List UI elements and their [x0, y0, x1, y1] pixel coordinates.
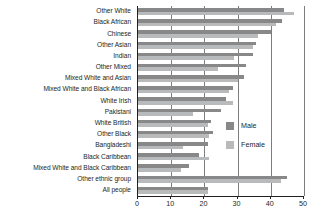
bar-row — [138, 28, 304, 39]
bar-female — [138, 79, 238, 83]
bar-female — [138, 112, 193, 116]
bar-row — [138, 73, 304, 84]
category-label: White British — [0, 118, 134, 129]
bar-female — [138, 101, 233, 105]
bar-female — [138, 168, 181, 172]
bar-female — [138, 179, 281, 183]
x-tick-label: 10 — [166, 200, 174, 207]
bar-female — [138, 123, 208, 127]
category-label: Other Black — [0, 129, 134, 140]
category-label: All people — [0, 185, 134, 196]
category-label: Pakistani — [0, 107, 134, 118]
bar-row — [138, 95, 304, 106]
gridline — [304, 6, 305, 196]
bar-female — [138, 34, 258, 38]
bar-female — [138, 45, 253, 49]
bar-female — [138, 157, 209, 161]
x-tick-label: 50 — [299, 200, 307, 207]
category-label: Mixed White and Black African — [0, 84, 134, 95]
x-tick-label: 40 — [266, 200, 274, 207]
x-tick-label: 0 — [135, 200, 139, 207]
x-tick-label: 30 — [233, 200, 241, 207]
x-tick-label: 20 — [199, 200, 207, 207]
category-label: White Irish — [0, 95, 134, 106]
bar-row — [138, 84, 304, 95]
category-label: Black Caribbean — [0, 151, 134, 162]
bar-female — [138, 67, 218, 71]
category-label: Mixed White and Black Caribbean — [0, 162, 134, 173]
legend-label: Female — [241, 141, 265, 148]
x-axis-line — [137, 196, 303, 197]
category-label: Other Asian — [0, 40, 134, 51]
category-label: Other ethnic group — [0, 174, 134, 185]
legend-swatch-icon — [226, 141, 234, 149]
bar-rows — [138, 6, 304, 196]
category-label: Bangladeshi — [0, 140, 134, 151]
bar-female — [138, 190, 208, 194]
legend-label: Male — [241, 122, 257, 129]
category-label: Other White — [0, 6, 134, 17]
legend-item-female: Female — [226, 141, 296, 149]
plot-area — [137, 6, 304, 196]
bar-row — [138, 17, 304, 28]
horizontal-bar-chart: Other WhiteBlack AfricanChineseOther Asi… — [0, 0, 312, 223]
bar-female — [138, 90, 229, 94]
category-label: Chinese — [0, 28, 134, 39]
bar-female — [138, 23, 276, 27]
bar-female — [138, 146, 183, 150]
bar-row — [138, 6, 304, 17]
bar-row — [138, 40, 304, 51]
legend-item-male: Male — [226, 122, 296, 130]
bar-female — [138, 12, 294, 16]
category-label: Black African — [0, 17, 134, 28]
category-label: Other Mixed — [0, 62, 134, 73]
category-label: Mixed White and Asian — [0, 73, 134, 84]
bar-row — [138, 62, 304, 73]
category-label: Indian — [0, 51, 134, 62]
bar-row — [138, 162, 304, 173]
bar-row — [138, 185, 304, 196]
bar-female — [138, 134, 209, 138]
bar-female — [138, 56, 234, 60]
bar-row — [138, 107, 304, 118]
legend-swatch-icon — [226, 122, 234, 130]
legend: MaleFemale — [226, 122, 296, 160]
bar-row — [138, 174, 304, 185]
x-axis-tick-labels: 01020304050 — [137, 200, 303, 212]
category-axis-labels: Other WhiteBlack AfricanChineseOther Asi… — [0, 6, 134, 196]
bar-row — [138, 51, 304, 62]
